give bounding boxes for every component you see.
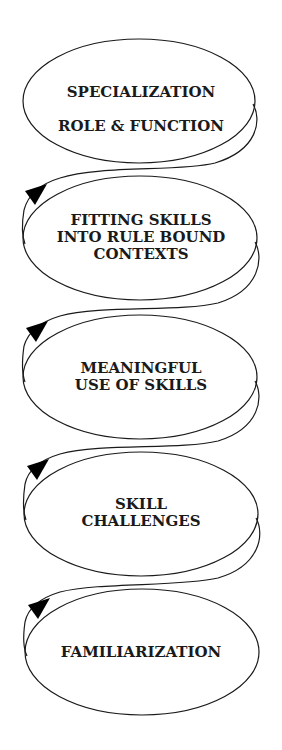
- stage-label-line: FAMILIARIZATION: [0, 644, 282, 661]
- stage-label-line: MEANINGFUL: [0, 360, 282, 377]
- stage-label-line: SKILL: [0, 496, 282, 513]
- stage-label-familiarization: FAMILIARIZATION: [0, 644, 282, 661]
- arrow-icon-2: [25, 184, 47, 205]
- stage-label-meaningful-use: MEANINGFUL USE OF SKILLS: [0, 360, 282, 394]
- arrow-icon-3: [26, 321, 48, 342]
- stage-label-line: FITTING SKILLS: [0, 212, 282, 229]
- stage-label-specialization: SPECIALIZATION ROLE & FUNCTION: [0, 75, 282, 143]
- stage-label-skill-challenges: SKILL CHALLENGES: [0, 496, 282, 530]
- stage-label-line: ROLE & FUNCTION: [0, 109, 282, 143]
- stage-label-line: USE OF SKILLS: [0, 377, 282, 394]
- stage-label-fitting-skills: FITTING SKILLS INTO RULE BOUND CONTEXTS: [0, 212, 282, 263]
- stage-label-line: INTO RULE BOUND: [0, 229, 282, 246]
- stage-label-line: CHALLENGES: [0, 513, 282, 530]
- stage-label-line: CONTEXTS: [0, 246, 282, 263]
- stage-label-line: SPECIALIZATION: [0, 75, 282, 109]
- arrow-icon-4: [27, 459, 49, 480]
